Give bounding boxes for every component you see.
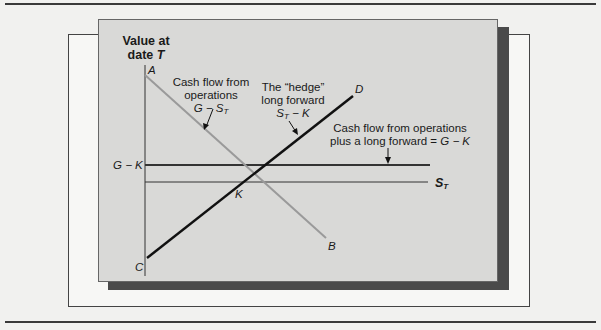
- combined-line1: Cash flow from operations: [333, 122, 467, 134]
- hedge-formula-s: S: [276, 107, 284, 119]
- gk-axis-label: G − K: [113, 159, 143, 172]
- ops-line2: operations: [184, 89, 238, 101]
- hedge-formula-rest: − K: [289, 107, 310, 119]
- x-label-sub: T: [443, 182, 448, 191]
- ops-line1: Cash flow from: [173, 76, 250, 88]
- point-a-label: A: [148, 64, 156, 77]
- point-c-label: C: [135, 261, 143, 274]
- point-b-label: B: [328, 240, 336, 253]
- point-k-label: K: [235, 188, 243, 201]
- combined-formula: G − K: [440, 135, 470, 147]
- combined-arrow-icon: [385, 148, 391, 164]
- hedge-line2: long forward: [261, 94, 324, 106]
- chart-plot: [0, 0, 601, 330]
- operations-label: Cash flow from operations G − ST: [166, 76, 256, 118]
- point-d-label: D: [355, 83, 363, 96]
- y-label-line1: Value at: [122, 34, 169, 48]
- combined-label: Cash flow from operations plus a long fo…: [320, 122, 480, 148]
- hedge-arrow-icon: [289, 121, 298, 135]
- ops-formula: G − S: [194, 102, 224, 114]
- ops-formula-sub: T: [223, 107, 228, 116]
- hedge-line1: The “hedge”: [262, 81, 325, 93]
- y-label-line2: date: [128, 48, 157, 62]
- y-axis-label: Value at date T: [113, 34, 179, 62]
- x-axis-label: ST: [435, 177, 448, 193]
- hedge-label: The “hedge” long forward ST − K: [255, 81, 331, 123]
- y-label-t: T: [157, 48, 165, 62]
- combined-line2: plus a long forward =: [330, 135, 440, 147]
